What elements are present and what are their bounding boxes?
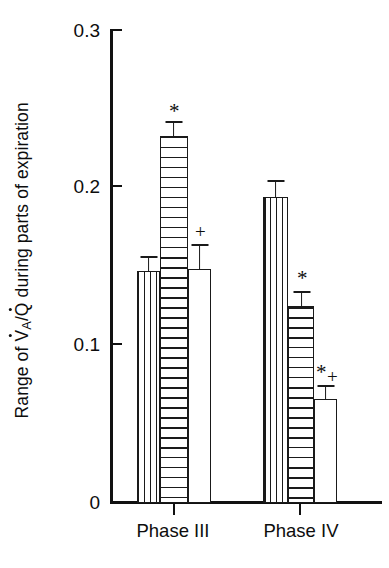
error-bar-cap — [140, 256, 157, 258]
y-tick-label-0: 0 — [40, 492, 100, 514]
error-bar-cap — [267, 180, 284, 182]
error-bar-cap — [293, 291, 310, 293]
significance-mark-phase-iii-series-3: + — [195, 222, 206, 241]
y-tick-label-0.1: 0.1 — [40, 334, 100, 356]
error-bar-phase-iv-series-2 — [293, 291, 310, 307]
error-bar-phase-iii-series-1 — [140, 256, 157, 272]
error-bar-cap — [191, 244, 208, 246]
bar-phase-iv-series-1 — [263, 197, 288, 503]
error-bar-phase-iv-series-1 — [267, 180, 284, 198]
error-bar-phase-iii-series-3 — [191, 244, 208, 270]
y-axis-line — [110, 29, 113, 504]
figure-root: Range of VA/Q during parts of expiration… — [0, 0, 389, 568]
bar-phase-iii-series-1 — [137, 271, 160, 503]
x-tick-mark-phase-iii — [173, 504, 175, 515]
x-tick-mark-phase-iv — [299, 504, 301, 515]
error-bar-phase-iv-series-3 — [317, 385, 334, 400]
plot-area: 0.3 0.2 0.1 0 Phase III Phase IV * + — [0, 0, 389, 568]
error-bar-stem — [301, 291, 303, 307]
significance-mark-phase-iii-series-2: * — [169, 101, 180, 122]
bar-phase-iii-series-3 — [188, 269, 211, 503]
x-tick-label-phase-iii: Phase III — [113, 520, 233, 542]
error-bar-phase-iii-series-2 — [165, 121, 182, 137]
significance-mark-phase-iv-series-3-star: * — [316, 362, 327, 383]
significance-mark-phase-iv-series-3-plus: + — [327, 367, 338, 386]
y-tick-mark-0.1 — [111, 343, 122, 345]
bar-phase-iv-series-2 — [288, 306, 314, 503]
y-tick-mark-0.2 — [111, 185, 122, 187]
y-tick-mark-0.3 — [111, 29, 122, 31]
error-bar-stem — [173, 121, 175, 137]
y-tick-label-0.2: 0.2 — [40, 176, 100, 198]
y-tick-label-0.3: 0.3 — [40, 20, 100, 42]
bar-phase-iii-series-2 — [160, 136, 188, 503]
error-bar-stem — [325, 385, 327, 400]
bar-phase-iv-series-3 — [314, 399, 337, 503]
error-bar-stem — [275, 180, 277, 198]
significance-mark-phase-iv-series-2: * — [297, 268, 308, 289]
error-bar-stem — [148, 256, 150, 272]
error-bar-stem — [199, 244, 201, 270]
x-tick-label-phase-iv: Phase IV — [241, 520, 361, 542]
